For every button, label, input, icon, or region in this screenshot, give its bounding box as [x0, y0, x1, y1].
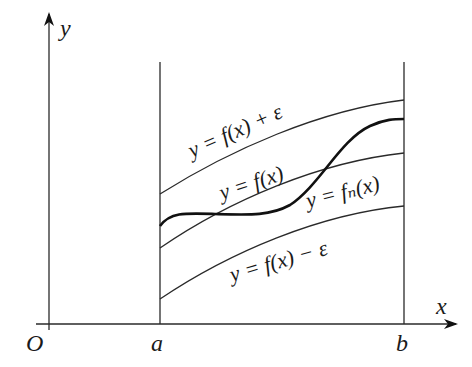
- label-f-minus-epsilon: y = f(x) − ε: [225, 235, 331, 287]
- label-fn: y = fₙ(x): [301, 170, 382, 213]
- b-label: b: [396, 330, 408, 356]
- x-axis-label: x: [435, 293, 447, 319]
- curve-f: [160, 153, 404, 248]
- y-axis-label: y: [58, 15, 71, 41]
- a-label: a: [151, 330, 163, 356]
- origin-label: O: [26, 330, 43, 356]
- uniform-convergence-diagram: y x O a b y = f(x) + ε y = f(x) y = fₙ(x…: [0, 0, 472, 367]
- label-f: y = f(x): [214, 161, 287, 206]
